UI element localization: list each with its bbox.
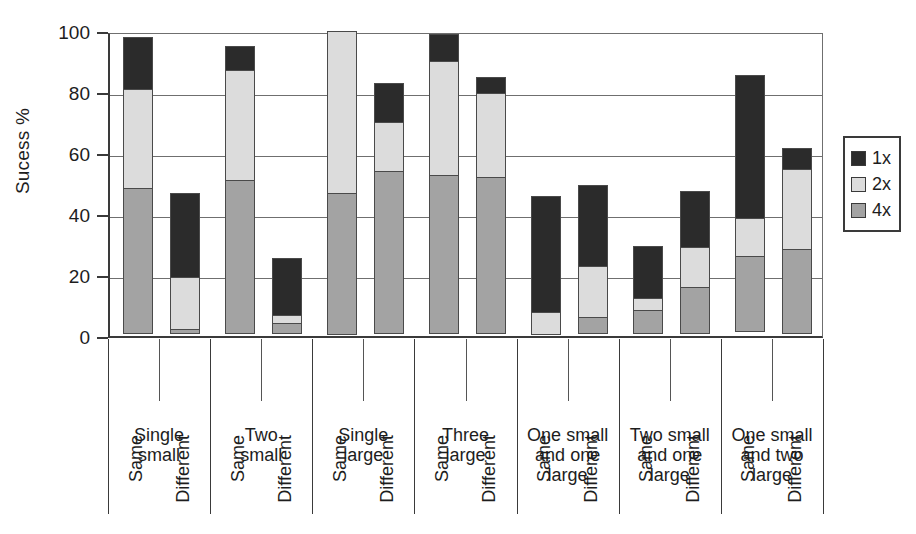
legend: 1x2x4x: [843, 136, 901, 232]
x-group-label-line: small: [108, 445, 210, 465]
x-group-label: Two smalland onelarge: [619, 425, 721, 485]
y-tick-mark: [97, 93, 108, 95]
bar-segment-4x: [123, 188, 153, 334]
bar-segment-4x: [680, 287, 710, 334]
x-group-label-line: and one: [619, 445, 721, 465]
x-group-label-line: Two: [210, 425, 312, 445]
group-separator: [823, 339, 824, 514]
y-axis-tick-labels: 020406080100: [24, 0, 90, 534]
bar-segment-4x: [735, 256, 765, 332]
bar-chart: Sucess % 020406080100 SameDifferentSingl…: [0, 0, 916, 534]
bar-same: [735, 75, 765, 336]
bar-segment-1x: [633, 246, 663, 299]
legend-item-1x: 1x: [851, 145, 893, 171]
bar-segment-2x: [170, 277, 200, 330]
bar-segment-4x: [782, 249, 812, 334]
y-tick-label: 60: [30, 145, 90, 164]
x-group-label-line: and two: [721, 445, 823, 465]
bar-segment-2x: [735, 218, 765, 258]
y-tick-mark: [97, 276, 108, 278]
bar-segment-1x: [272, 258, 302, 316]
bar-segment-1x: [531, 196, 561, 313]
bar-same: [225, 46, 255, 336]
x-axis-labels: SameDifferentSinglesmallSameDifferentTwo…: [108, 339, 823, 519]
bar-segment-1x: [680, 191, 710, 247]
bar-segment-2x: [374, 122, 404, 172]
bar-segment-2x: [476, 93, 506, 178]
bar-same: [327, 31, 357, 336]
x-group-label: One smalland onelarge: [517, 425, 619, 485]
bar-same: [429, 34, 459, 336]
bar-segment-4x: [578, 317, 608, 334]
bar-same: [531, 196, 561, 336]
legend-item-4x: 4x: [851, 197, 893, 223]
y-tick-mark: [97, 154, 108, 156]
legend-item-2x: 2x: [851, 171, 893, 197]
legend-swatch-1x: [851, 151, 866, 166]
x-group-label-line: Three: [414, 425, 516, 445]
bar-different: [578, 185, 608, 336]
x-group-label-line: large: [619, 465, 721, 485]
x-group-label-line: large: [721, 465, 823, 485]
bar-segment-2x: [531, 312, 561, 335]
y-tick-label: 100: [30, 23, 90, 42]
bar-segment-1x: [735, 75, 765, 218]
y-tick-label: 20: [30, 267, 90, 286]
bar-segment-4x: [633, 310, 663, 334]
y-tick-label: 80: [30, 84, 90, 103]
y-tick-mark: [97, 32, 108, 34]
condition-separator: [772, 339, 773, 401]
x-group-label: Singlelarge: [312, 425, 414, 465]
bar-segment-2x: [225, 70, 255, 181]
bar-segment-2x: [327, 31, 357, 194]
bar-different: [782, 148, 812, 336]
x-group-label-line: large: [414, 445, 516, 465]
bar-same: [123, 37, 153, 336]
x-group-label-line: Two small: [619, 425, 721, 445]
condition-separator: [670, 339, 671, 401]
bar-segment-1x: [170, 193, 200, 278]
legend-swatch-4x: [851, 203, 866, 218]
legend-swatch-2x: [851, 177, 866, 192]
bar-segment-2x: [782, 169, 812, 250]
condition-separator: [363, 339, 364, 401]
bar-segment-2x: [123, 89, 153, 188]
y-tick-mark: [97, 215, 108, 217]
bar-segment-1x: [782, 148, 812, 169]
x-group-label-line: large: [517, 465, 619, 485]
y-tick-mark: [97, 337, 108, 339]
bar-segment-4x: [374, 171, 404, 334]
x-group-label: Threelarge: [414, 425, 516, 465]
bar-different: [272, 258, 302, 336]
y-tick-label: 0: [30, 328, 90, 347]
x-group-label-line: One small: [721, 425, 823, 445]
y-tick-label: 40: [30, 206, 90, 225]
bar-series-container: [110, 34, 822, 336]
legend-label: 2x: [872, 175, 891, 193]
bar-different: [680, 191, 710, 336]
bar-segment-4x: [225, 180, 255, 334]
x-group-label-line: One small: [517, 425, 619, 445]
x-group-label-line: Single: [312, 425, 414, 445]
condition-separator: [466, 339, 467, 401]
x-group-label: Twosmall: [210, 425, 312, 465]
bar-segment-1x: [225, 46, 255, 70]
bar-segment-4x: [476, 177, 506, 334]
bar-different: [170, 193, 200, 336]
bar-segment-4x: [170, 329, 200, 334]
bar-segment-2x: [680, 247, 710, 288]
bar-segment-4x: [429, 175, 459, 334]
bar-same: [633, 246, 663, 336]
x-group-label-line: Single: [108, 425, 210, 445]
legend-label: 1x: [872, 149, 891, 167]
bar-segment-1x: [476, 77, 506, 94]
condition-separator: [159, 339, 160, 401]
bar-segment-2x: [578, 266, 608, 318]
bar-different: [476, 77, 506, 336]
bar-segment-1x: [429, 34, 459, 61]
bar-segment-4x: [327, 193, 357, 335]
x-group-label: Singlesmall: [108, 425, 210, 465]
bar-segment-1x: [374, 83, 404, 123]
x-group-label-line: and one: [517, 445, 619, 465]
condition-separator: [261, 339, 262, 401]
